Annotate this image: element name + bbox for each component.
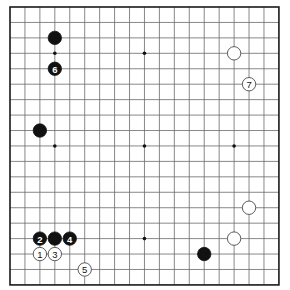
stone-disc bbox=[33, 124, 46, 137]
white-stone bbox=[242, 201, 255, 214]
star-point bbox=[143, 237, 147, 241]
star-point bbox=[53, 144, 57, 148]
star-point bbox=[143, 144, 147, 148]
white-stone-3: 3 bbox=[48, 247, 61, 260]
white-stone bbox=[227, 47, 240, 60]
stone-disc bbox=[227, 47, 240, 60]
black-stone-2: 2 bbox=[33, 232, 46, 245]
star-point bbox=[143, 52, 147, 56]
white-stone-7: 7 bbox=[242, 78, 255, 91]
black-stone bbox=[198, 247, 211, 260]
move-number: 5 bbox=[82, 264, 87, 275]
black-stone-4: 4 bbox=[63, 232, 76, 245]
move-number: 3 bbox=[52, 249, 57, 260]
stone-disc bbox=[227, 232, 240, 245]
stone-disc bbox=[198, 247, 211, 260]
move-number: 2 bbox=[37, 234, 42, 245]
move-number: 1 bbox=[37, 249, 42, 260]
black-stone bbox=[48, 31, 61, 44]
move-number: 4 bbox=[67, 234, 73, 245]
move-number: 7 bbox=[246, 79, 251, 90]
star-point bbox=[232, 144, 236, 148]
black-stone bbox=[48, 232, 61, 245]
white-stone-1: 1 bbox=[33, 247, 46, 260]
black-stone bbox=[33, 124, 46, 137]
black-stone-6: 6 bbox=[48, 62, 61, 75]
go-board: 6724135 bbox=[0, 0, 290, 290]
stone-disc bbox=[48, 31, 61, 44]
star-point bbox=[53, 52, 57, 56]
white-stone-5: 5 bbox=[78, 263, 91, 276]
stone-disc bbox=[242, 201, 255, 214]
move-number: 6 bbox=[52, 64, 57, 75]
stone-disc bbox=[48, 232, 61, 245]
white-stone bbox=[227, 232, 240, 245]
